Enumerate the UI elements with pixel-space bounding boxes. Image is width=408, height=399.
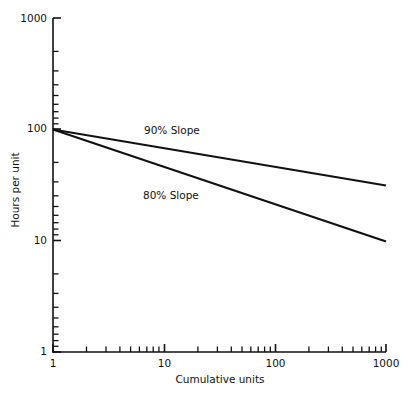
series-line-80-slope <box>53 130 386 242</box>
x-axis-title: Cumulative units <box>175 373 264 385</box>
series-annotation-90-slope: 90% Slope <box>144 124 200 136</box>
x-tick-label-1000: 1000 <box>373 357 400 369</box>
series-line-90-slope <box>53 130 386 186</box>
x-tick-labels: 1 10 100 1000 <box>50 357 400 369</box>
x-tick-label-100: 100 <box>265 357 285 369</box>
x-tick-label-1: 1 <box>50 357 57 369</box>
y-axis-title: Hours per unit <box>9 152 21 227</box>
y-tick-label-100: 100 <box>27 122 47 134</box>
learning-curve-chart: 1000 100 10 1 1 10 100 1000 90% Slope 80… <box>0 0 408 399</box>
x-tick-label-10: 10 <box>158 357 171 369</box>
chart-canvas: 1000 100 10 1 1 10 100 1000 90% Slope 80… <box>0 0 408 399</box>
y-tick-label-10: 10 <box>34 234 47 246</box>
y-tick-label-1000: 1000 <box>20 12 47 24</box>
y-tick-label-1: 1 <box>40 345 47 357</box>
y-axis-ticks <box>53 18 61 352</box>
y-tick-labels: 1000 100 10 1 <box>20 12 47 357</box>
x-axis-ticks <box>53 344 386 352</box>
series-annotation-80-slope: 80% Slope <box>143 189 199 201</box>
